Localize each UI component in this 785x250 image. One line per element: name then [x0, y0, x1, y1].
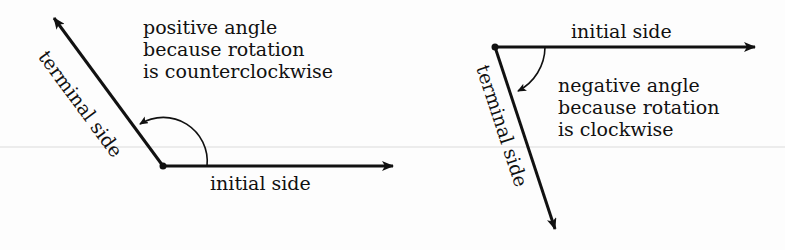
caption-line: because rotation — [558, 96, 720, 118]
caption-line: positive angle — [143, 16, 333, 38]
negative-angle-caption: negative angle because rotation is clock… — [558, 74, 720, 140]
counterclockwise-rotation-arc-icon — [140, 117, 207, 166]
angle-diagram: positive angle because rotation is count… — [0, 0, 785, 250]
vertex-dot-left — [160, 163, 167, 170]
initial-side-label-right: initial side — [571, 20, 672, 42]
caption-line: is clockwise — [558, 118, 720, 140]
initial-side-label-left: initial side — [210, 172, 311, 194]
caption-line: is counterclockwise — [143, 60, 333, 82]
clockwise-rotation-arc-icon — [518, 47, 545, 91]
caption-line: negative angle — [558, 74, 720, 96]
positive-angle-caption: positive angle because rotation is count… — [143, 16, 333, 82]
vertex-dot-right — [492, 44, 499, 51]
caption-line: because rotation — [143, 38, 333, 60]
